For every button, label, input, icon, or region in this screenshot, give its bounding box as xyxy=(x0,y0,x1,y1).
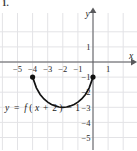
y-axis-arrowhead xyxy=(90,8,97,14)
equation-plus-sign: + xyxy=(43,103,48,113)
axes xyxy=(0,8,137,151)
x-tick-label: −2 xyxy=(58,64,67,74)
equation-vertical-shift: 1 xyxy=(75,103,80,113)
curve-endpoint-dot xyxy=(90,75,95,80)
x-tick-label: −4 xyxy=(28,64,38,74)
x-axis-tick-labels: −5−4−3−2−11 xyxy=(13,64,110,74)
graph-figure: 1. x y −5−4−3−2−11 1−1−2−3−4−5 y = f ( x… xyxy=(0,0,137,150)
equation-argument-variable: x xyxy=(34,103,40,113)
y-tick-label: −3 xyxy=(81,103,90,113)
x-tick-label: −3 xyxy=(43,64,52,74)
y-tick-label: −1 xyxy=(81,72,90,82)
coordinate-plane-graph: x y −5−4−3−2−11 1−1−2−3−4−5 y = f ( x + … xyxy=(0,0,137,150)
y-tick-label: −4 xyxy=(81,118,91,128)
equation-annotation: y = f ( x + 2 ) − 1 xyxy=(4,103,80,114)
y-tick-label: −5 xyxy=(81,133,90,143)
y-axis-label: y xyxy=(85,9,91,19)
y-tick-label: 1 xyxy=(86,42,90,52)
equation-equals: = xyxy=(14,103,19,113)
curve-endpoint-dot xyxy=(30,75,35,80)
equation-minus-sign: − xyxy=(66,103,71,113)
equation-horizontal-shift: 2 xyxy=(52,103,57,113)
equation-function-name: f xyxy=(24,103,28,113)
x-axis-label: x xyxy=(128,51,134,61)
equation-lhs: y xyxy=(4,103,10,113)
equation-close-paren: ) xyxy=(59,103,62,114)
x-tick-label: −5 xyxy=(13,64,22,74)
grid-lines xyxy=(0,13,137,150)
equation-open-paren: ( xyxy=(29,103,32,114)
x-tick-label: 1 xyxy=(106,64,110,74)
